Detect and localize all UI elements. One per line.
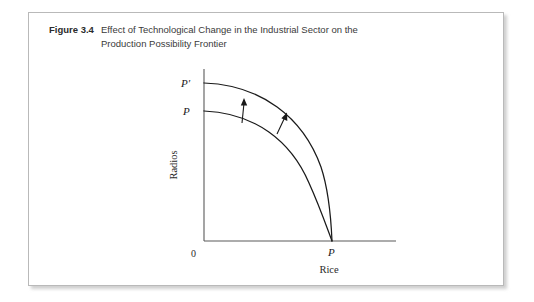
origin-label: 0 [191,248,196,259]
label-p-upper: P [182,105,190,117]
shift-arrow-right [277,113,287,135]
ppf-chart: P′ P 0 P Rice Radios [29,13,505,287]
x-axis-title: Rice [319,264,339,275]
ppf-curve-original [204,111,332,241]
figure-root: Figure 3.4Effect of Technological Change… [0,0,534,302]
ppf-curve-shifted [204,83,332,241]
figure-frame: Figure 3.4Effect of Technological Change… [28,12,504,286]
y-axis-title: Radios [168,150,179,179]
label-p-x-intercept: P [327,246,335,258]
label-p-prime: P′ [180,77,191,89]
ppf-chart-svg: P′ P 0 P Rice Radios [29,13,505,287]
